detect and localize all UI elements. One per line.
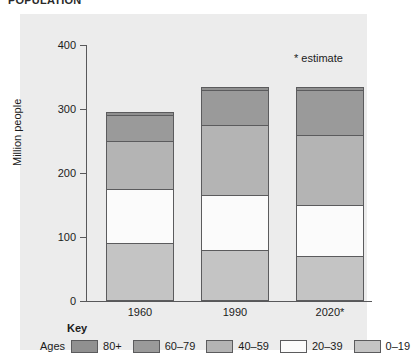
legend-item-80-plus[interactable]: 80+ xyxy=(71,340,122,353)
x-tick-label-2020: 2020* xyxy=(285,306,375,318)
bar-group-container xyxy=(86,45,372,301)
bar-segment-80 xyxy=(201,87,269,90)
y-tick-label: 400 xyxy=(46,40,76,51)
bar-1990 xyxy=(201,87,269,301)
legend-swatch-icon xyxy=(354,340,381,353)
bar-2020 xyxy=(296,87,364,301)
legend-prefix-label: Ages xyxy=(40,340,65,352)
legend-item-40-59[interactable]: 40–59 xyxy=(206,340,269,353)
bar-segment-0-19 xyxy=(201,250,269,301)
y-axis-tick-labels: 400 300 200 100 0 xyxy=(40,14,76,350)
bar-segment-60-79 xyxy=(106,115,174,141)
bar-segment-60-79 xyxy=(201,90,269,125)
legend-item-20-39[interactable]: 20–39 xyxy=(280,340,343,353)
legend: Ages 80+ 60–79 40–59 20–39 0–19 xyxy=(40,338,415,354)
plot-area: Million people 400 300 200 100 0 * estim… xyxy=(20,14,367,350)
legend-swatch-icon xyxy=(280,340,307,353)
y-tick-label: 100 xyxy=(46,232,76,243)
x-axis-line xyxy=(86,301,372,302)
bar-segment-0-19 xyxy=(106,243,174,301)
legend-item-label: 0–19 xyxy=(386,340,410,352)
y-tick-label: 200 xyxy=(46,168,76,179)
legend-swatch-icon xyxy=(206,340,233,353)
bar-segment-0-19 xyxy=(296,256,364,301)
legend-swatch-icon xyxy=(71,340,98,353)
bar-segment-20-39 xyxy=(201,195,269,249)
figure-caption: POPULATION xyxy=(8,0,81,6)
legend-title: Key xyxy=(67,322,87,334)
bar-segment-80 xyxy=(296,87,364,90)
x-tick-label-1990: 1990 xyxy=(190,306,280,318)
bar-segment-20-39 xyxy=(106,189,174,243)
y-tick-label: 0 xyxy=(46,296,76,307)
legend-item-label: 40–59 xyxy=(238,340,269,352)
y-tick-label: 300 xyxy=(46,104,76,115)
bar-1960 xyxy=(106,112,174,301)
legend-item-label: 60–79 xyxy=(165,340,196,352)
bar-segment-20-39 xyxy=(296,205,364,256)
legend-item-0-19[interactable]: 0–19 xyxy=(354,340,410,353)
bar-segment-60-79 xyxy=(296,90,364,135)
legend-item-60-79[interactable]: 60–79 xyxy=(133,340,196,353)
bar-segment-40-59 xyxy=(296,135,364,205)
bar-segment-40-59 xyxy=(106,141,174,189)
y-axis-title: Million people xyxy=(11,99,23,166)
bar-segment-40-59 xyxy=(201,125,269,195)
legend-item-label: 80+ xyxy=(103,340,122,352)
legend-swatch-icon xyxy=(133,340,160,353)
x-tick-label-1960: 1960 xyxy=(95,306,185,318)
legend-item-label: 20–39 xyxy=(312,340,343,352)
bar-segment-80 xyxy=(106,112,174,115)
